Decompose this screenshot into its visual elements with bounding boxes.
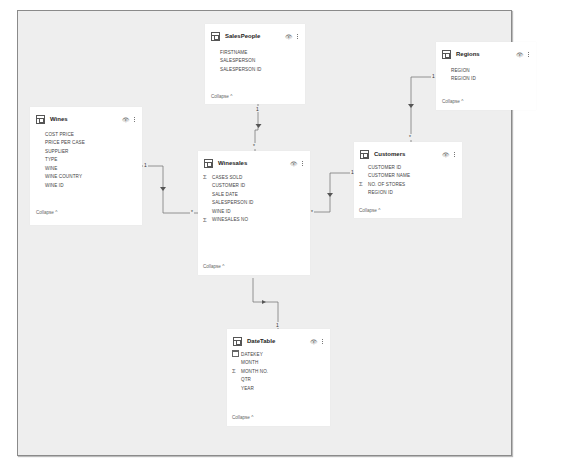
field-item[interactable]: DATEKEY [232,350,326,359]
collapse-button[interactable]: Collapse ^ [232,415,253,420]
sigma-icon: Σ [203,174,212,180]
table-title: SalesPeople [225,33,285,39]
field-item[interactable]: QTR [232,376,326,385]
sigma-icon: Σ [359,181,368,187]
collapse-button[interactable]: Collapse ^ [203,264,224,269]
field-item[interactable]: ΣWINESALES NO [203,216,306,225]
collapse-button[interactable]: Collapse ^ [36,210,57,215]
field-item[interactable]: CUSTOMER ID [203,182,306,191]
table-card-regions[interactable]: Regions 👁 REGION REGION ID Collapse ^ [436,42,536,110]
table-header[interactable]: SalesPeople 👁 [211,29,299,43]
table-icon [233,337,242,346]
rel-customers-winesales[interactable] [310,173,354,212]
table-card-wines[interactable]: Wines 👁 COST PRICE PRICE PER CASE SUPPLI… [30,107,142,225]
more-options-icon[interactable] [454,152,456,157]
field-item[interactable]: FIRSTNAME [211,48,301,57]
table-icon [36,115,45,124]
field-item[interactable]: ΣCASES SOLD [203,173,306,182]
field-item[interactable]: CUSTOMER NAME [359,172,458,181]
rel-regions-customers[interactable] [411,77,436,142]
field-item[interactable]: REGION ID [442,75,532,84]
collapse-button[interactable]: Collapse ^ [359,208,380,213]
table-icon [442,50,451,59]
collapse-button[interactable]: Collapse ^ [211,94,232,99]
field-item[interactable]: WINE ID [36,181,138,190]
field-item[interactable]: SALESPERSON ID [211,65,301,74]
table-header[interactable]: Customers 👁 [360,147,456,161]
table-header[interactable]: DateTable 👁 [233,334,324,348]
table-card-salespeople[interactable]: SalesPeople 👁 FIRSTNAME SALESPERSON SALE… [205,24,305,104]
field-item[interactable]: SALESPERSON ID [203,199,306,208]
field-item[interactable]: WINE ID [203,207,306,216]
table-header[interactable]: Regions 👁 [442,47,530,61]
field-item[interactable]: CUSTOMER ID [359,163,458,172]
table-title: Regions [456,51,516,57]
collapse-button[interactable]: Collapse ^ [442,99,463,104]
table-title: Winesales [218,160,290,166]
sigma-icon: Σ [232,368,241,374]
table-card-winesales[interactable]: Winesales 👁 ΣCASES SOLD CUSTOMER ID SALE… [198,151,310,275]
table-card-datetable[interactable]: DateTable 👁 DATEKEY MONTH ΣMONTH NO. QTR… [227,329,330,426]
cardinality-one-label: 1 [143,162,148,168]
field-item[interactable]: WINE COUNTRY [36,173,138,182]
cardinality-many-label: * [252,143,256,149]
cardinality-many-label: * [310,209,314,215]
field-item[interactable]: REGION ID [359,189,458,198]
field-item[interactable]: TYPE [36,156,138,165]
eye-icon[interactable]: 👁 [285,33,293,40]
field-item[interactable]: SALESPERSON [211,57,301,66]
table-icon [204,159,213,168]
table-header[interactable]: Wines 👁 [36,112,136,126]
table-header[interactable]: Winesales 👁 [204,156,304,170]
more-options-icon[interactable] [302,161,304,166]
table-title: Wines [50,116,122,122]
cardinality-many-label: * [190,209,194,215]
table-title: DateTable [247,338,310,344]
cardinality-many-label: * [408,134,412,140]
field-item[interactable]: REGION [442,66,532,75]
field-item[interactable]: SALE DATE [203,190,306,199]
sigma-icon: Σ [203,217,212,223]
eye-icon[interactable]: 👁 [516,51,524,58]
table-card-customers[interactable]: Customers 👁 CUSTOMER ID CUSTOMER NAME ΣN… [354,142,462,218]
more-options-icon[interactable] [134,117,136,122]
more-options-icon[interactable] [322,339,324,344]
rel-wines-winesales[interactable] [142,166,198,213]
eye-icon[interactable]: 👁 [442,151,450,158]
table-icon [360,150,369,159]
field-item[interactable]: YEAR [232,384,326,393]
field-item[interactable]: MONTH [232,359,326,368]
field-item[interactable]: ΣNO. OF STORES [359,180,458,189]
table-icon [211,32,220,41]
cardinality-one-label: 1 [275,322,280,328]
calendar-icon [232,350,241,358]
field-item[interactable]: COST PRICE [36,130,138,139]
table-title: Customers [374,151,442,157]
eye-icon[interactable]: 👁 [122,116,130,123]
field-item[interactable]: ΣMONTH NO. [232,367,326,376]
more-options-icon[interactable] [297,34,299,39]
field-item[interactable]: SUPPLIER [36,147,138,156]
field-item[interactable]: WINE [36,164,138,173]
field-item[interactable]: PRICE PER CASE [36,139,138,148]
cardinality-one-label: 1 [255,106,260,112]
eye-icon[interactable]: 👁 [310,338,318,345]
more-options-icon[interactable] [528,52,530,57]
eye-icon[interactable]: 👁 [290,160,298,167]
